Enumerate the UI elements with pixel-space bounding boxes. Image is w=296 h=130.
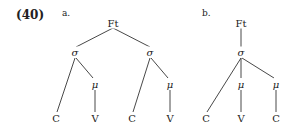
tree-edges (0, 0, 296, 130)
tree-b-mora-node-1: μ (237, 79, 246, 90)
tree-a-syllable-node-1: σ (71, 47, 80, 58)
tree-a-label: a. (62, 8, 70, 18)
tree-b-label: b. (202, 8, 211, 18)
tree-b-mora-node-2: μ (272, 79, 281, 90)
tree-b-syllable-node: σ (237, 47, 246, 58)
tree-a-mora-node-1: μ (91, 79, 100, 90)
tree-a-vowel-node-1: V (90, 113, 99, 124)
tree-b-consonant-node-2: C (271, 113, 281, 124)
tree-a-consonant-node-1: C (51, 113, 61, 124)
tree-b-vowel-node-1: V (236, 113, 245, 124)
tree-b-consonant-node-1: C (201, 113, 211, 124)
tree-a-vowel-node-2: V (165, 113, 174, 124)
tree-a-syllable-node-2: σ (146, 47, 155, 58)
tree-a-consonant-node-2: C (127, 113, 137, 124)
tree-b-foot-node: Ft (235, 18, 248, 29)
tree-a-foot-node: Ft (107, 18, 120, 29)
tree-a-mora-node-2: μ (166, 79, 175, 90)
